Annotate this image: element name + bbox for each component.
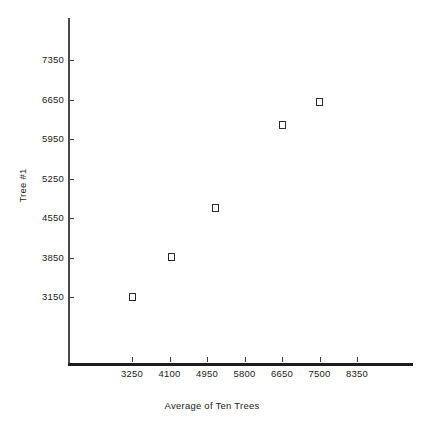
x-tick-mark <box>207 357 208 362</box>
x-tick-label-text: 6650 <box>262 368 302 379</box>
y-tick-label-text: 5250 <box>28 173 64 184</box>
x-tick-label: 3250 <box>112 368 152 381</box>
x-tick-label-text: 5800 <box>225 368 265 379</box>
data-point-marker <box>168 253 175 261</box>
x-tick-label-text: 4950 <box>187 368 227 379</box>
y-tick-mark <box>70 139 74 140</box>
y-tick-label: 6650 <box>28 94 64 106</box>
x-tick-label: 4950 <box>187 368 227 381</box>
y-tick-label: 4550 <box>28 212 64 224</box>
x-axis-line <box>68 363 413 366</box>
y-axis-line <box>68 18 70 366</box>
x-tick-mark <box>245 357 246 362</box>
y-tick-label-text: 6650 <box>28 94 64 105</box>
x-tick-mark <box>132 357 133 362</box>
y-tick-mark <box>70 179 74 180</box>
y-axis-title: Tree #1 <box>17 156 28 216</box>
y-tick-label: 3150 <box>28 291 64 303</box>
x-axis-title: Average of Ten Trees <box>0 400 424 411</box>
x-tick-label: 8350 <box>337 368 377 381</box>
y-tick-label: 7350 <box>28 54 64 66</box>
x-tick-label-text: 3250 <box>112 368 152 379</box>
x-tick-label-text: 8350 <box>337 368 377 379</box>
data-point-marker <box>129 293 136 301</box>
y-tick-label: 5250 <box>28 173 64 185</box>
data-point-marker <box>316 98 323 106</box>
y-tick-label: 5950 <box>28 133 64 145</box>
y-tick-label-text: 3850 <box>28 252 64 263</box>
y-tick-label-text: 3150 <box>28 291 64 302</box>
x-tick-mark <box>357 357 358 362</box>
x-tick-label: 4100 <box>150 368 190 381</box>
y-tick-mark <box>70 100 74 101</box>
y-tick-mark <box>70 218 74 219</box>
y-tick-label-text: 5950 <box>28 133 64 144</box>
x-tick-label-text: 7500 <box>300 368 340 379</box>
y-tick-label-text: 4550 <box>28 212 64 223</box>
x-tick-mark <box>282 357 283 362</box>
data-point-marker <box>212 204 219 212</box>
y-tick-mark <box>70 297 74 298</box>
x-tick-label-text: 4100 <box>150 368 190 379</box>
x-tick-mark <box>170 357 171 362</box>
x-tick-label: 6650 <box>262 368 302 381</box>
y-tick-mark <box>70 258 74 259</box>
x-tick-label: 7500 <box>300 368 340 381</box>
y-tick-mark <box>70 60 74 61</box>
y-tick-label: 3850 <box>28 252 64 264</box>
x-tick-mark <box>320 357 321 362</box>
y-tick-label-text: 7350 <box>28 54 64 65</box>
data-point-marker <box>279 121 286 129</box>
scatter-plot-figure: 7350665059505250455038503150 32504100495… <box>0 0 424 426</box>
x-tick-label: 5800 <box>225 368 265 381</box>
